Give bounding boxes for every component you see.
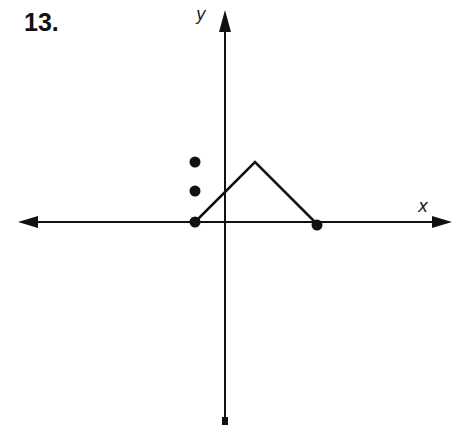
graph-canvas (0, 0, 455, 425)
y-axis-up-arrow-icon (219, 10, 231, 32)
x-axis (18, 216, 452, 228)
point-dot (312, 220, 323, 231)
point-dot (190, 186, 201, 197)
y-axis (219, 10, 231, 425)
x-axis-left-arrow-icon (18, 216, 38, 228)
y-axis-bottom-end-icon (222, 417, 228, 425)
point-dot (190, 217, 201, 228)
x-axis-right-arrow-icon (432, 216, 452, 228)
function-graph-line (195, 162, 317, 224)
point-dot (190, 157, 201, 168)
